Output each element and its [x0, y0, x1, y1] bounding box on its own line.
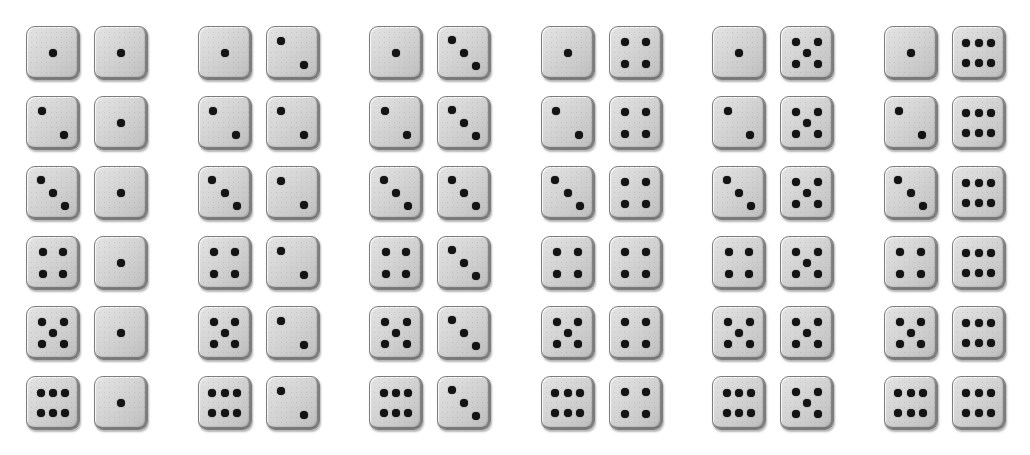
pip-3: [621, 200, 629, 208]
pip-4: [642, 200, 650, 208]
pip-1: [448, 176, 456, 184]
pip-3: [61, 202, 69, 210]
pip-2: [575, 131, 583, 139]
pip-1: [277, 387, 285, 395]
pip-2: [300, 61, 308, 69]
pip-2: [642, 388, 650, 396]
die-left-g5-r2: [712, 96, 766, 150]
die-face-5: [781, 97, 833, 149]
die-right-g5-r5: [780, 306, 834, 360]
pip-2: [300, 341, 308, 349]
die-face-1: [95, 237, 147, 289]
pip-1: [552, 107, 560, 115]
pip-2: [49, 389, 57, 397]
die-face-3: [438, 377, 490, 429]
pip-3: [803, 119, 811, 127]
pip-6: [987, 339, 995, 347]
pip-3: [747, 389, 755, 397]
pip-3: [919, 389, 927, 397]
pip-3: [49, 329, 57, 337]
pip-4: [642, 270, 650, 278]
die-face-2: [267, 237, 319, 289]
pip-2: [642, 108, 650, 116]
die-right-g1-r6: [94, 376, 148, 430]
die-left-g5-r6: [712, 376, 766, 430]
pip-1: [117, 49, 125, 57]
pip-3: [621, 340, 629, 348]
die-face-1: [542, 27, 594, 79]
die-face-2: [370, 97, 422, 149]
pip-1: [277, 177, 285, 185]
die-face-6: [542, 377, 594, 429]
pip-1: [896, 318, 904, 326]
die-face-3: [542, 167, 594, 219]
die-face-5: [781, 377, 833, 429]
pip-3: [472, 342, 480, 350]
pip-1: [621, 108, 629, 116]
die-face-3: [438, 27, 490, 79]
pip-2: [975, 39, 983, 47]
pip-2: [460, 259, 468, 267]
die-right-g6-r5: [952, 306, 1006, 360]
pip-5: [975, 339, 983, 347]
pip-1: [962, 389, 970, 397]
pip-2: [300, 411, 308, 419]
pip-4: [210, 340, 218, 348]
die-face-3: [885, 167, 937, 219]
die-face-1: [95, 377, 147, 429]
pip-5: [574, 340, 582, 348]
die-face-5: [713, 307, 765, 359]
pip-2: [814, 108, 822, 116]
pip-1: [553, 318, 561, 326]
die-face-2: [199, 97, 251, 149]
die-face-2: [267, 97, 319, 149]
pip-3: [735, 329, 743, 337]
pip-2: [907, 389, 915, 397]
pip-1: [621, 248, 629, 256]
pip-2: [975, 319, 983, 327]
pip-1: [277, 107, 285, 115]
pip-2: [917, 318, 925, 326]
die-right-g6-r1: [952, 26, 1006, 80]
die-face-2: [267, 307, 319, 359]
die-face-4: [610, 307, 662, 359]
die-face-4: [610, 377, 662, 429]
pip-5: [746, 340, 754, 348]
die-face-4: [542, 237, 594, 289]
die-face-5: [781, 307, 833, 359]
die-left-g1-r6: [26, 376, 80, 430]
pip-2: [642, 178, 650, 186]
pip-4: [723, 409, 731, 417]
die-face-3: [438, 167, 490, 219]
pip-3: [404, 389, 412, 397]
die-left-g6-r1: [884, 26, 938, 80]
pip-1: [37, 176, 45, 184]
pip-2: [232, 131, 240, 139]
die-face-4: [199, 237, 251, 289]
pip-2: [402, 248, 410, 256]
die-right-g1-r4: [94, 236, 148, 290]
pip-5: [231, 340, 239, 348]
pip-4: [59, 270, 67, 278]
pip-3: [472, 62, 480, 70]
pip-4: [962, 339, 970, 347]
pip-3: [803, 189, 811, 197]
die-face-4: [713, 237, 765, 289]
pip-2: [814, 248, 822, 256]
pip-1: [117, 259, 125, 267]
pip-6: [404, 409, 412, 417]
pip-2: [975, 249, 983, 257]
dice-sample-space-grid: [0, 0, 1030, 455]
pip-2: [231, 318, 239, 326]
die-left-g3-r1: [369, 26, 423, 80]
die-face-6: [885, 377, 937, 429]
pip-3: [472, 412, 480, 420]
pip-2: [975, 179, 983, 187]
die-right-g2-r5: [266, 306, 320, 360]
die-face-1: [27, 27, 79, 79]
die-face-1: [95, 307, 147, 359]
pip-4: [380, 409, 388, 417]
pip-4: [208, 409, 216, 417]
pip-2: [300, 271, 308, 279]
pip-4: [642, 340, 650, 348]
